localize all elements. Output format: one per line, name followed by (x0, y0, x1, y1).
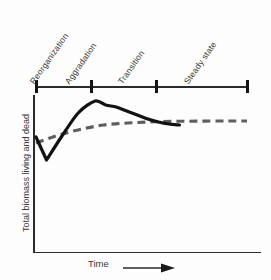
plot-curves (0, 0, 271, 280)
asymptotic-trend-curve (36, 121, 247, 143)
biomass-succession-figure: Reorganization Aggradation Transition St… (0, 0, 271, 280)
total-biomass-curve (36, 101, 179, 160)
